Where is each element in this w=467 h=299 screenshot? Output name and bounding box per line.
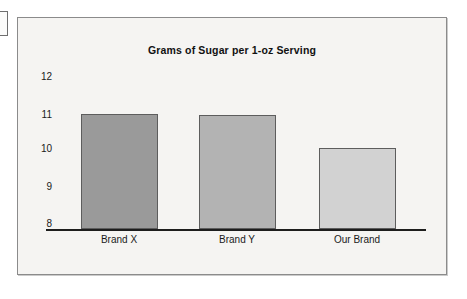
x-axis-line [46,229,426,231]
scan-edge-artifact [0,11,8,36]
bar-group-brand-y [199,115,276,229]
bar-our-brand [319,148,396,229]
bar-group-our-brand [319,148,396,229]
category-label-our-brand: Our Brand [334,234,380,245]
y-axis-tick-11: 11 [18,109,52,120]
category-label-brand-y: Brand Y [219,234,255,245]
y-axis-tick-12: 12 [18,71,52,82]
plot-area: 12 11 10 9 8 Brand X Brand Y Our Brand [18,18,448,276]
chart-frame: Grams of Sugar per 1-oz Serving 12 11 10… [17,17,447,275]
y-axis-tick-10: 10 [18,143,52,154]
y-axis-tick-8: 8 [18,218,52,229]
bar-brand-x [81,114,158,229]
category-label-brand-x: Brand X [101,234,137,245]
y-axis-tick-9: 9 [18,181,52,192]
bar-group-brand-x [81,114,158,229]
bar-brand-y [199,115,276,229]
